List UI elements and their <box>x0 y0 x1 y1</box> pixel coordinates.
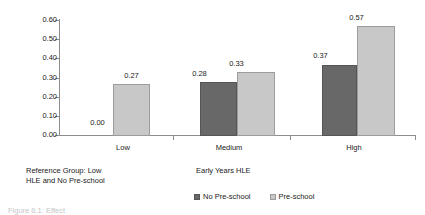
figure-caption: Figure 6.1: Effect <box>8 207 188 215</box>
reference-group-note: Reference Group: Low HLE and No Pre-scho… <box>26 166 105 186</box>
y-axis-label: 0.10 <box>25 112 57 120</box>
legend-label: No Pre-school <box>203 192 251 201</box>
data-label-low-no-preschool: 0.00 <box>75 119 120 127</box>
y-axis-label: 0.00 <box>25 131 57 139</box>
bar-high-preschool <box>357 26 395 136</box>
data-label-low-preschool: 0.27 <box>109 72 154 80</box>
x-axis-tick <box>415 136 416 140</box>
bar-medium-preschool <box>237 72 275 136</box>
data-label-high-no-preschool: 0.37 <box>298 52 343 60</box>
legend-swatch-icon <box>270 194 276 200</box>
effect-size-bar-chart: Effect Size 0.60 0.50 0.40 0.30 0.20 0.1… <box>0 0 425 215</box>
y-axis-label: 0.50 <box>25 35 57 43</box>
bar-low-preschool <box>113 84 150 136</box>
legend-swatch-icon <box>194 194 200 200</box>
y-axis-label: 0.30 <box>25 74 57 82</box>
data-label-medium-preschool: 0.33 <box>214 60 259 68</box>
x-axis-tick <box>173 136 174 140</box>
data-label-high-preschool: 0.57 <box>334 14 379 22</box>
x-axis-title: Early Years HLE <box>196 166 251 176</box>
figure-caption-text: Figure 6.1: Effect <box>8 207 188 215</box>
x-axis-category-low: Low <box>94 143 152 152</box>
data-label-medium-no-preschool: 0.28 <box>177 70 222 78</box>
legend-item-preschool: Pre-school <box>270 192 315 201</box>
x-axis-tick <box>290 136 291 140</box>
x-axis-category-high: High <box>325 143 383 152</box>
chart-legend: No Pre-school Pre-school <box>194 192 314 201</box>
bar-medium-no-preschool <box>200 82 237 136</box>
legend-label: Pre-school <box>279 192 315 201</box>
legend-item-no-preschool: No Pre-school <box>194 192 251 201</box>
bar-high-no-preschool <box>322 65 357 137</box>
x-axis-category-medium: Medium <box>200 143 258 152</box>
y-axis-label: 0.20 <box>25 93 57 101</box>
y-axis-label: 0.40 <box>25 54 57 62</box>
y-axis-label: 0.60 <box>25 16 57 24</box>
